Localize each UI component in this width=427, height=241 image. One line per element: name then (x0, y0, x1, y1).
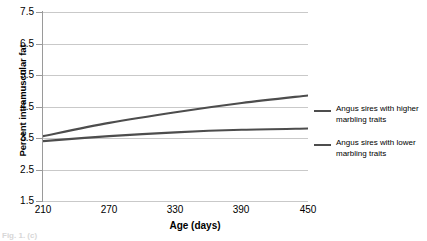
x-tick-label-450: 450 (288, 204, 328, 215)
series-plot (43, 12, 308, 201)
gridline-1-5 (43, 201, 308, 202)
chart-figure: Percent intramuscular fat 7.5 6.5 5.5 4.… (0, 0, 427, 241)
legend-label-higher-line2: marbling traits (336, 115, 386, 124)
y-tick-label-5-5: 5.5 (8, 69, 34, 80)
x-tick-label-210: 210 (23, 204, 63, 215)
y-tick-label-7-5: 7.5 (8, 6, 34, 17)
legend-label-lower-marbling: Angus sires with lower marbling traits (336, 138, 427, 159)
x-axis-title: Age (days) (135, 220, 255, 231)
y-tick-label-2-5: 2.5 (8, 164, 34, 175)
y-tick-label-6-5: 6.5 (8, 38, 34, 49)
x-tick-label-330: 330 (155, 204, 195, 215)
y-tick-1-5 (36, 201, 43, 202)
line-lower-marbling (43, 129, 308, 142)
legend-label-higher-marbling: Angus sires with higher marbling traits (336, 104, 427, 125)
y-tick-label-4-5: 4.5 (8, 101, 34, 112)
legend-swatch-higher-marbling (314, 110, 331, 112)
y-tick-7-5 (36, 12, 43, 13)
legend-swatch-lower-marbling (314, 144, 331, 146)
y-tick-3-5 (36, 138, 43, 139)
legend-label-lower-line2: marbling traits (336, 149, 386, 158)
x-tick-label-270: 270 (89, 204, 129, 215)
legend-label-higher-line1: Angus sires with higher (336, 104, 419, 113)
y-tick-5-5 (36, 75, 43, 76)
legend-label-lower-line1: Angus sires with lower (336, 138, 416, 147)
figure-caption: Fig. 1. (c) (2, 231, 92, 240)
y-tick-4-5 (36, 107, 43, 108)
x-tick-label-390: 390 (221, 204, 261, 215)
y-tick-2-5 (36, 170, 43, 171)
y-tick-6-5 (36, 44, 43, 45)
y-tick-label-3-5: 3.5 (8, 132, 34, 143)
